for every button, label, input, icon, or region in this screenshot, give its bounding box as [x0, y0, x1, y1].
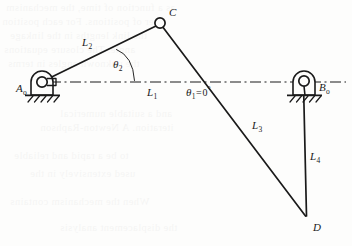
linkage-diagram	[0, 0, 352, 246]
joint-label-b0: Bo	[319, 82, 329, 93]
link-label-l3: L3	[252, 120, 262, 131]
link-label-l4: L4	[310, 151, 320, 162]
ground-hatching-b0	[290, 96, 321, 102]
link-l4	[304, 84, 307, 216]
joint-label-a0: Ao	[16, 83, 26, 94]
joint-label-d: D	[313, 222, 321, 233]
joint-label-c: C	[169, 7, 176, 18]
link-l3	[162, 26, 306, 216]
link-l2	[44, 25, 159, 81]
pin-circle-a0	[37, 77, 47, 87]
figure-page: as a function of time, the mechanism ber…	[0, 0, 352, 246]
ground-hatching-a0	[28, 96, 59, 102]
pin-circle-c	[155, 18, 165, 28]
pin-circle-b0	[299, 76, 309, 86]
angle-label-theta1: θ1 = 0°	[186, 87, 211, 98]
link-label-l2: L2	[82, 37, 92, 48]
link-label-l1: L1	[147, 87, 157, 98]
angle-label-theta2: θ2	[113, 59, 122, 70]
